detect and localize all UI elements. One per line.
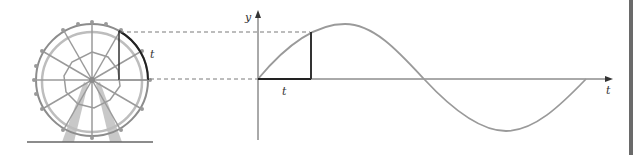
graph-axes: y t [244,10,613,140]
ferris-wheel-sine-diagram: t y t t [0,0,633,155]
sine-curve [258,24,586,131]
wheel-arc-label: t [150,48,155,61]
t-axis-label: t [606,84,611,97]
graph-segment-label: t [282,85,287,98]
t-axis-arrow-icon [605,76,613,82]
y-axis-label: y [244,11,252,24]
ferris-wheel: t [32,20,155,142]
wheel-hub [89,77,95,83]
y-axis-arrow-icon [255,10,261,18]
right-border-strip [629,0,633,155]
